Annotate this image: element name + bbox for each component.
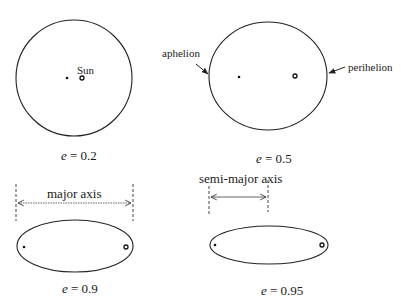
- orbit-ellipse: [17, 220, 133, 272]
- aphelion-label: aphelion: [162, 47, 200, 59]
- major-axis-label: major axis: [47, 186, 102, 201]
- orbit-e02: Sun e = 0.2: [16, 20, 132, 163]
- sun-icon: [80, 76, 84, 80]
- eccentricity-label-e095: e = 0.95: [261, 283, 303, 298]
- sun-icon: [293, 74, 297, 78]
- orbit-e09: major axis e = 0.9: [16, 184, 133, 296]
- perihelion-arrow-icon: [329, 67, 345, 73]
- eccentricity-label-e09: e = 0.9: [62, 281, 98, 296]
- center-dot-icon: [238, 76, 241, 79]
- orbit-e095: semi-major axis e = 0.95: [199, 171, 328, 298]
- sun-label: Sun: [77, 64, 95, 76]
- semi-major-axis-label: semi-major axis: [199, 171, 282, 186]
- perihelion-label: perihelion: [348, 61, 393, 73]
- eccentricity-label-e05: e = 0.5: [256, 151, 292, 166]
- orbit-ellipse: [209, 22, 327, 130]
- orbit-ellipse: [210, 226, 328, 264]
- eccentricity-label-e02: e = 0.2: [61, 148, 97, 163]
- sun-icon: [124, 245, 128, 249]
- sun-icon: [320, 243, 324, 247]
- orbit-eccentricity-diagram: Sun e = 0.2 aphelion perihelion e = 0.5 …: [0, 0, 401, 308]
- center-dot-icon: [214, 244, 217, 247]
- aphelion-arrow-icon: [196, 64, 208, 74]
- center-dot-icon: [66, 77, 69, 80]
- orbit-circle: [16, 20, 132, 136]
- center-dot-icon: [23, 246, 26, 249]
- orbit-e05: aphelion perihelion e = 0.5: [162, 22, 393, 166]
